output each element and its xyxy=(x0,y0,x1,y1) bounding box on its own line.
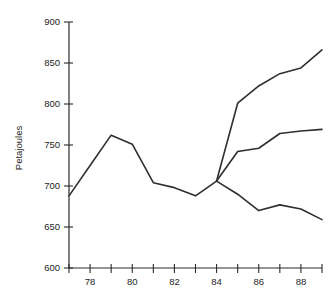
x-tick-label: 80 xyxy=(127,276,138,287)
x-tick-label: 84 xyxy=(211,276,222,287)
line-chart: 600650700750800850900 788082848688 Petaj… xyxy=(0,0,332,302)
y-tick-label: 750 xyxy=(44,139,60,150)
y-tick-label: 600 xyxy=(44,262,60,273)
y-tick-label: 800 xyxy=(44,98,60,109)
y-tick-label: 700 xyxy=(44,180,60,191)
chart-background xyxy=(0,0,332,302)
y-tick-label: 650 xyxy=(44,221,60,232)
y-tick-label: 850 xyxy=(44,57,60,68)
axis-title-layer: Petajoules xyxy=(13,126,24,171)
x-tick-label: 78 xyxy=(85,276,96,287)
chart-canvas: 600650700750800850900 788082848688 Petaj… xyxy=(0,0,332,302)
x-tick-label: 82 xyxy=(169,276,180,287)
y-axis-title: Petajoules xyxy=(13,126,24,171)
y-tick-label: 900 xyxy=(44,16,60,27)
x-tick-label: 88 xyxy=(296,276,307,287)
x-tick-label: 86 xyxy=(253,276,264,287)
